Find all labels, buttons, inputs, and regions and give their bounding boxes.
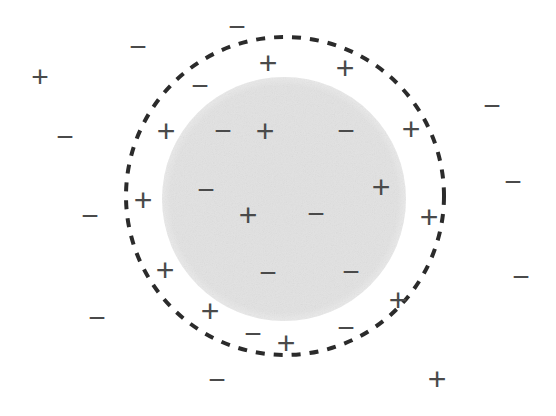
minus-charge-icon: −	[307, 199, 325, 229]
minus-charge-icon: −	[88, 303, 106, 333]
plus-charge-icon: +	[277, 327, 296, 359]
minus-charge-icon: −	[228, 12, 246, 42]
minus-charge-icon: −	[512, 262, 530, 292]
plus-charge-icon: +	[336, 52, 355, 84]
minus-charge-icon: −	[197, 175, 215, 205]
minus-charge-icon: −	[337, 116, 355, 146]
plus-charge-icon: +	[157, 115, 176, 147]
plus-charge-icon: +	[239, 199, 258, 231]
plus-charge-icon: +	[156, 254, 175, 286]
plus-charge-icon: +	[134, 184, 153, 216]
minus-charge-icon: −	[208, 365, 226, 395]
plus-charge-icon: +	[389, 284, 408, 316]
minus-charge-icon: −	[337, 313, 355, 343]
minus-charge-icon: −	[191, 71, 209, 101]
plus-charge-icon: +	[420, 201, 439, 233]
minus-charge-icon: −	[259, 258, 277, 288]
figure-canvas: +−−−++−−+−+−+−+−+−+−+−−+−++−−−+−+	[0, 0, 556, 416]
minus-charge-icon: −	[81, 201, 99, 231]
plus-charge-icon: +	[428, 363, 447, 395]
plus-charge-icon: +	[201, 295, 220, 327]
minus-charge-icon: −	[244, 319, 262, 349]
minus-charge-icon: −	[214, 116, 232, 146]
plus-charge-icon: +	[402, 113, 421, 145]
minus-charge-icon: −	[483, 91, 501, 121]
plus-charge-icon: +	[259, 47, 278, 79]
minus-charge-icon: −	[342, 257, 360, 287]
minus-charge-icon: −	[129, 32, 147, 62]
plus-charge-icon: +	[31, 62, 49, 92]
minus-charge-icon: −	[56, 122, 74, 152]
plus-charge-icon: +	[372, 171, 391, 203]
plus-charge-icon: +	[256, 115, 275, 147]
minus-charge-icon: −	[504, 167, 522, 197]
